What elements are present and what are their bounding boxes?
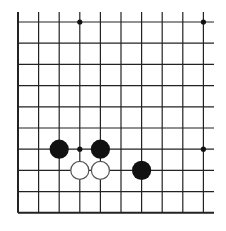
black-stone bbox=[50, 140, 69, 159]
white-stone bbox=[91, 161, 109, 179]
black-stone bbox=[132, 161, 151, 180]
white-stone bbox=[71, 161, 89, 179]
go-board[interactable] bbox=[0, 0, 226, 231]
star-point bbox=[77, 19, 82, 24]
star-point bbox=[77, 147, 82, 152]
black-stone bbox=[91, 140, 110, 159]
star-point bbox=[201, 147, 206, 152]
board-grid bbox=[18, 12, 214, 213]
star-point bbox=[201, 19, 206, 24]
